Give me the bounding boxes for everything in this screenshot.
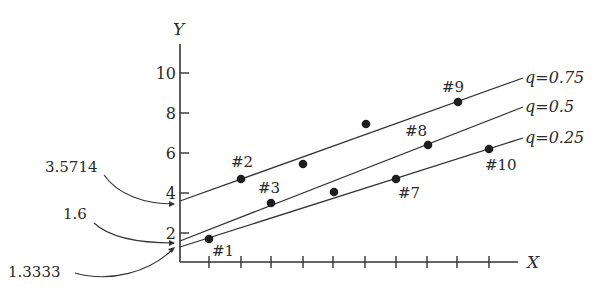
point-label-3: #3: [258, 179, 280, 197]
quantile-regression-chart: Y X 10 8 6 4 2 q=0.75 q=0.5 q=0.25: [0, 0, 603, 296]
callout-label-q025: 1.3333: [8, 263, 61, 281]
point-label-9: #9: [442, 78, 464, 96]
y-ticks: 10 8 6 4 2: [156, 64, 189, 243]
data-point-10: [485, 145, 494, 154]
callout-arrow-q050: [94, 223, 174, 243]
y-tick-label-10: 10: [156, 64, 176, 83]
data-point-5: [330, 188, 339, 197]
line-q075: [180, 78, 523, 201]
line-label-q050: q=0.5: [525, 97, 574, 116]
y-tick-label-2: 2: [166, 224, 176, 243]
point-label-1: #1: [212, 242, 234, 260]
point-label-2: #2: [231, 153, 253, 171]
x-axis-title: X: [525, 252, 540, 272]
data-point-9: [454, 98, 463, 107]
line-label-q025: q=0.25: [525, 128, 584, 147]
callout-arrow-q025: [75, 249, 173, 277]
point-label-8: #8: [405, 122, 427, 140]
y-tick-label-4: 4: [166, 184, 176, 203]
y-tick-label-6: 6: [166, 144, 176, 163]
data-point-2: [237, 175, 246, 184]
y-tick-label-8: 8: [166, 104, 176, 123]
intercept-callouts: 3.5714 1.6 1.3333: [8, 158, 175, 281]
line-label-q075: q=0.75: [525, 68, 584, 87]
point-label-7: #7: [398, 184, 420, 202]
callout-label-q075: 3.5714: [45, 158, 98, 176]
data-point-8: [424, 141, 433, 150]
data-point-4: [299, 160, 308, 169]
line-q050: [180, 107, 523, 241]
data-point-3: [267, 199, 276, 208]
callout-arrow-q075: [104, 175, 174, 204]
point-label-10: #10: [485, 156, 517, 174]
callout-label-q050: 1.6: [63, 205, 87, 223]
axes: Y X: [173, 19, 540, 272]
data-point-7: [392, 175, 401, 184]
y-axis-title: Y: [173, 19, 186, 39]
data-point-6: [362, 120, 371, 129]
